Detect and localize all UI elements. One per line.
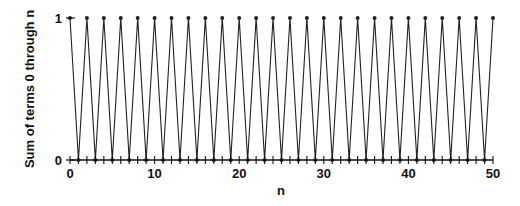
data-point — [423, 16, 427, 20]
data-point — [389, 16, 393, 20]
y-tick-label: 0 — [55, 153, 62, 168]
data-point — [186, 16, 190, 20]
data-point — [153, 16, 157, 20]
data-point — [288, 16, 292, 20]
data-point — [373, 16, 377, 20]
x-tick-label: 10 — [147, 166, 161, 181]
x-tick-label: 30 — [317, 166, 331, 181]
data-point — [474, 16, 478, 20]
data-point — [457, 16, 461, 20]
data-point — [339, 16, 343, 20]
data-point — [271, 16, 275, 20]
data-point — [85, 16, 89, 20]
x-axis: 01020304050 — [66, 156, 500, 181]
data-point — [356, 16, 360, 20]
data-point — [491, 16, 495, 20]
data-point — [305, 16, 309, 20]
x-axis-label: n — [277, 183, 285, 198]
data-point — [136, 16, 140, 20]
y-tick-label: 1 — [55, 11, 62, 26]
y-axis: 01 — [55, 11, 75, 168]
data-point — [406, 16, 410, 20]
x-tick-label: 40 — [401, 166, 415, 181]
data-point — [237, 16, 241, 20]
data-point — [170, 16, 174, 20]
data-point — [220, 16, 224, 20]
data-point — [203, 16, 207, 20]
data-series-line — [68, 16, 495, 162]
data-point — [102, 16, 106, 20]
x-tick-label: 50 — [486, 166, 500, 181]
data-point — [440, 16, 444, 20]
data-point — [254, 16, 258, 20]
x-tick-label: 20 — [232, 166, 246, 181]
data-point — [322, 16, 326, 20]
data-point — [119, 16, 123, 20]
chart: 01020304050 01 n Sum of terms 0 through … — [0, 0, 520, 206]
x-tick-label: 0 — [66, 166, 73, 181]
y-axis-label: Sum of terms 0 through n — [22, 10, 37, 168]
